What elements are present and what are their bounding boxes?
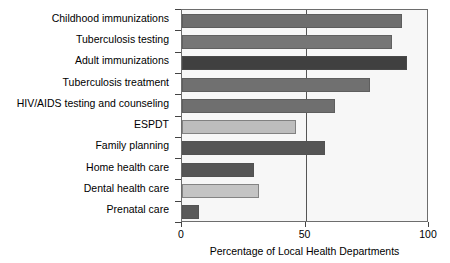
bar (182, 14, 402, 28)
bar (182, 205, 199, 219)
y-axis-tick (175, 94, 181, 95)
bar (182, 78, 370, 92)
category-label: ESPDT (0, 119, 169, 130)
bar (182, 163, 254, 177)
category-label: Adult immunizations (0, 55, 169, 66)
category-label: Dental health care (0, 183, 169, 194)
bar (182, 184, 259, 198)
y-axis-tick (175, 179, 181, 180)
x-axis-tick-label: 0 (178, 228, 184, 240)
category-axis: Childhood immunizationsTuberculosis test… (0, 8, 175, 222)
plot-area (181, 9, 428, 222)
bar-chart-figure: Childhood immunizationsTuberculosis test… (0, 0, 450, 263)
y-axis-tick (175, 30, 181, 31)
y-axis-tick (175, 9, 181, 10)
x-axis-tick (428, 222, 429, 227)
category-label: Prenatal care (0, 204, 169, 215)
category-label: HIV/AIDS testing and counseling (0, 98, 169, 109)
y-axis-tick (175, 137, 181, 138)
bar (182, 56, 407, 70)
y-axis-tick (175, 158, 181, 159)
y-axis-tick (175, 201, 181, 202)
x-axis-tick (305, 222, 306, 227)
y-axis-tick (175, 116, 181, 117)
y-axis-tick (175, 73, 181, 74)
category-label: Home health care (0, 162, 169, 173)
category-label: Tuberculosis testing (0, 34, 169, 45)
category-label: Tuberculosis treatment (0, 77, 169, 88)
bar (182, 141, 325, 155)
category-label: Family planning (0, 140, 169, 151)
x-axis-title: Percentage of Local Health Departments (181, 245, 428, 257)
x-axis-tick (181, 222, 182, 227)
bar (182, 35, 392, 49)
x-axis-tick-label: 50 (299, 228, 311, 240)
x-axis-tick-label: 100 (419, 228, 437, 240)
category-label: Childhood immunizations (0, 13, 169, 24)
y-axis-tick (175, 52, 181, 53)
bar (182, 99, 335, 113)
bar (182, 120, 296, 134)
